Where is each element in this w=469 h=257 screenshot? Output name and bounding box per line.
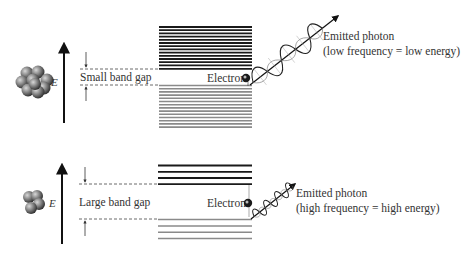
band-gap-diagram: E Small band gap bbox=[0, 0, 469, 257]
band-gap-label: Small band gap bbox=[80, 71, 152, 84]
conduction-band bbox=[159, 27, 252, 69]
photon-label-description: (low frequency = low energy) bbox=[323, 45, 460, 58]
atom-cluster-large-icon bbox=[16, 66, 54, 99]
electron-label: Electron bbox=[207, 72, 246, 84]
photon-high-frequency bbox=[250, 181, 296, 221]
band-gap-label: Large band gap bbox=[79, 196, 151, 209]
photon-direction-arrow bbox=[251, 184, 295, 219]
photon-label-title: Emitted photon bbox=[323, 30, 394, 43]
energy-axis-label: E bbox=[48, 197, 56, 209]
valence-band bbox=[159, 86, 252, 128]
energy-axis-label: E bbox=[50, 76, 58, 88]
atom-cluster-small-icon bbox=[23, 190, 45, 214]
electron-icon bbox=[244, 199, 252, 207]
panel-large-band-gap: E Large band gap Electron bbox=[23, 165, 440, 244]
electron-icon bbox=[242, 74, 250, 82]
valence-band bbox=[158, 220, 252, 239]
electron-label: Electron bbox=[207, 197, 246, 209]
panel-small-band-gap: E Small band gap bbox=[16, 16, 461, 127]
photon-label-title: Emitted photon bbox=[296, 187, 367, 200]
conduction-band bbox=[158, 166, 252, 185]
photon-label-description: (high frequency = high energy) bbox=[296, 202, 440, 215]
